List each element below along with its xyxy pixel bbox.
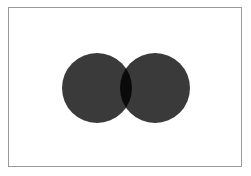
- venn-diagram: [0, 0, 251, 176]
